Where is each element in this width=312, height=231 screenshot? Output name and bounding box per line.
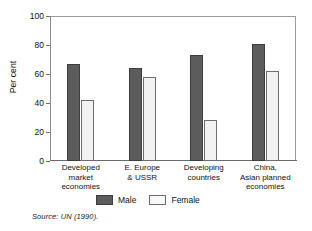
y-tick-mark [46, 16, 50, 17]
x-axis-category-labels: DevelopedmarketeconomiesE. Europe& USSRD… [50, 163, 296, 199]
chart-legend: MaleFemale [96, 195, 200, 205]
legend-swatch-male [96, 195, 113, 205]
y-axis-title: Per cent [8, 42, 18, 112]
bar-female-4 [266, 71, 279, 161]
y-tick-mark [46, 161, 50, 162]
bar-male-2 [129, 68, 142, 161]
category-label-4: China,Asian plannedeconomies [220, 163, 310, 192]
y-tick-label: 80 [22, 41, 44, 50]
y-tick-label: 40 [22, 99, 44, 108]
y-tick-label: 60 [22, 70, 44, 79]
y-tick-mark [46, 45, 50, 46]
legend-item-male: Male [96, 195, 136, 205]
y-axis-tick-labels: 100806040200 [20, 0, 44, 231]
bar-male-1 [67, 64, 80, 161]
legend-label: Male [118, 195, 136, 205]
y-tick-mark [46, 103, 50, 104]
bar-male-3 [190, 55, 203, 161]
y-tick-label: 20 [22, 128, 44, 137]
category-label-line: China, [220, 163, 310, 173]
source-note: Source: UN (1990). [32, 212, 98, 221]
y-tick-mark [46, 74, 50, 75]
legend-label: Female [171, 195, 199, 205]
bar-chart-figure: Per cent 100806040200 Developedmarketeco… [0, 0, 312, 231]
category-label-line: Asian planned [220, 173, 310, 183]
bar-female-3 [204, 120, 217, 161]
legend-item-female: Female [149, 195, 199, 205]
category-label-line: economies [220, 182, 310, 192]
bars-layer [50, 16, 296, 161]
bar-male-4 [252, 44, 265, 161]
bar-female-1 [81, 100, 94, 161]
bar-female-2 [143, 77, 156, 161]
y-tick-label: 100 [22, 12, 44, 21]
category-label-line: economies [36, 182, 126, 192]
y-tick-mark [46, 132, 50, 133]
legend-swatch-female [149, 195, 166, 205]
